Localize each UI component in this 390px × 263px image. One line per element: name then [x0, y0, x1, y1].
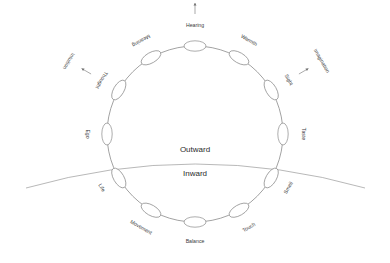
sense-node — [109, 78, 129, 102]
node-label: Life — [97, 183, 106, 193]
node-label: Sight — [284, 73, 295, 87]
node-label: Movement — [129, 218, 153, 236]
main-circle — [107, 46, 283, 222]
outward-label: Outward — [180, 145, 210, 154]
twelve-senses-diagram: HearingWarmthSightTasteSmellTouchBalance… — [0, 0, 390, 263]
node-ellipse — [184, 41, 206, 51]
node-label: Taste — [301, 128, 307, 141]
diagram-canvas: HearingWarmthSightTasteSmellTouchBalance… — [0, 0, 390, 263]
sense-node — [102, 123, 112, 145]
node-label: Meaning — [131, 33, 151, 48]
node-label: Touch — [241, 221, 256, 233]
sense-node — [139, 48, 163, 68]
node-label: Hearing — [186, 22, 204, 28]
sense-nodes: HearingWarmthSightTasteSmellTouchBalance… — [85, 22, 307, 244]
sense-node — [227, 48, 251, 68]
node-label: Ego — [85, 129, 91, 138]
arrow-head-icon — [194, 3, 197, 6]
node-ellipse — [227, 200, 251, 220]
node-ellipse — [261, 78, 281, 102]
node-label: Balance — [186, 238, 205, 244]
node-ellipse — [278, 123, 288, 145]
node-ellipse — [184, 217, 206, 227]
node-label: Smell — [282, 181, 294, 195]
sense-node — [261, 78, 281, 102]
node-ellipse — [102, 123, 112, 145]
node-ellipse — [227, 48, 251, 68]
node-ellipse — [139, 200, 163, 220]
node-label: Warmth — [240, 33, 259, 47]
node-ellipse — [109, 78, 129, 102]
outer-annotation-label: Intuition — [62, 52, 76, 71]
sense-node — [184, 41, 206, 51]
sense-node — [227, 200, 251, 220]
node-ellipse — [139, 48, 163, 68]
sense-node — [278, 123, 288, 145]
outer-annotations: InspirationImaginationIntuition — [62, 0, 331, 74]
sense-node — [184, 217, 206, 227]
node-label: Thought — [94, 71, 109, 91]
sense-node — [139, 200, 163, 220]
outer-annotation-label: Imagination — [313, 48, 332, 74]
inward-label: Inward — [183, 169, 207, 178]
